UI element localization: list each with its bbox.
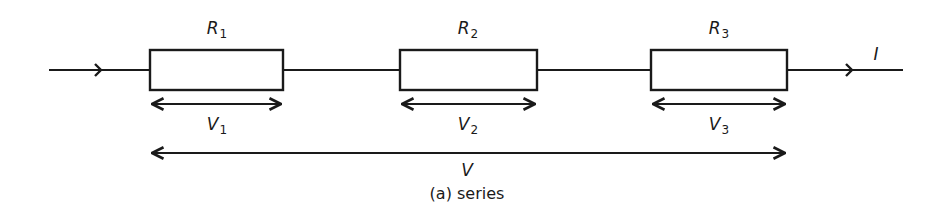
resistor-label-r2: R2 [458, 18, 478, 38]
label-symbol: R [207, 18, 219, 38]
label-symbol: V [709, 114, 721, 134]
label-symbol: R [709, 18, 721, 38]
resistor-label-r3: R3 [709, 18, 729, 38]
label-subscript: 3 [722, 123, 730, 137]
current-label: I [873, 44, 878, 64]
label-subscript: 1 [220, 27, 228, 41]
voltage-label-v1: V1 [207, 114, 227, 134]
resistor-r2 [400, 50, 537, 90]
figure-caption: (a) series [430, 184, 505, 203]
label-subscript: 1 [220, 123, 228, 137]
label-subscript: 2 [471, 27, 479, 41]
resistor-r3 [651, 50, 787, 90]
label-symbol: R [458, 18, 470, 38]
resistor-label-r1: R1 [207, 18, 227, 38]
label-symbol: V [207, 114, 219, 134]
resistor-r1 [150, 50, 283, 90]
total-voltage-label: V [461, 160, 473, 180]
label-subscript: 2 [471, 123, 479, 137]
voltage-label-v2: V2 [458, 114, 478, 134]
label-symbol: V [458, 114, 470, 134]
voltage-label-v3: V3 [709, 114, 729, 134]
label-subscript: 3 [722, 27, 730, 41]
